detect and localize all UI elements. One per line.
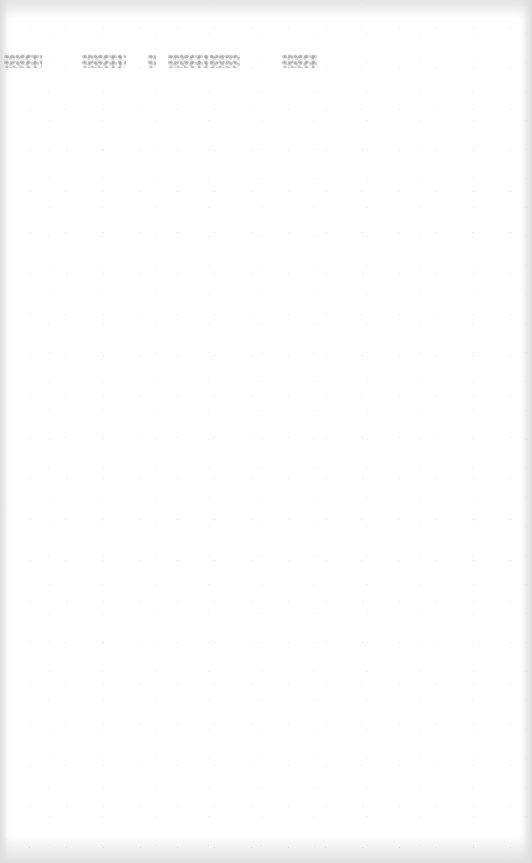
bleed-through-fragment bbox=[282, 54, 318, 68]
bleed-through-fragment bbox=[4, 54, 42, 68]
page-edge-shadow-bottom bbox=[0, 835, 532, 863]
bleed-through-fragment bbox=[148, 54, 156, 68]
page-edge-shadow-right bbox=[522, 0, 532, 863]
bleed-through-text bbox=[0, 48, 1, 49]
page-edge-shadow-top bbox=[0, 0, 532, 18]
bleed-through-fragment bbox=[82, 54, 126, 68]
scanned-page bbox=[0, 0, 532, 863]
page-edge-shadow-left bbox=[0, 0, 8, 863]
bleed-through-text-line bbox=[0, 48, 532, 78]
paper-speckle-texture bbox=[0, 0, 532, 863]
bleed-through-fragment bbox=[168, 54, 240, 68]
